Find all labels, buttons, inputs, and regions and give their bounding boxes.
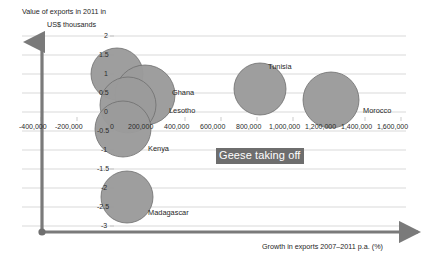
x-tick-1400000: 1,400,000	[341, 123, 372, 130]
x-tick-600000: 600,000	[200, 123, 225, 130]
y-tick-m2: -2	[101, 184, 107, 191]
bubble-morocco	[303, 72, 359, 128]
bubble-madagascar	[101, 171, 153, 223]
bubble-label-lesotho: Lesotho	[169, 107, 195, 114]
gridlines-horizontal	[22, 36, 406, 226]
x-tick-1200000: 1,200,000	[305, 123, 336, 130]
x-tick-m200000: -200,000	[55, 123, 83, 130]
x-tick-800000: 800,000	[236, 123, 261, 130]
x-tick-400000: 400,000	[164, 123, 189, 130]
y-tick-m1p5: -1.5	[97, 165, 109, 172]
y-tick-m3: -3	[101, 222, 107, 229]
x-tick-0: 0	[110, 123, 114, 130]
x-tick-1600000: 1,600,000	[377, 123, 408, 130]
y-tick-1p5: 1.5	[99, 51, 109, 58]
annotation-geese-taking-off: Geese taking off	[216, 148, 304, 164]
bubble-label-tunisia: Tunisia	[268, 63, 292, 70]
y-axis-title-line1: Value of exports in 2011 in	[22, 8, 106, 15]
bubble-label-morocco: Morocco	[363, 107, 391, 114]
y-tick-m0p5: -0.5	[97, 127, 109, 134]
y-tick-m2p5: -2.5	[97, 203, 109, 210]
chart-canvas	[0, 0, 435, 264]
x-tick-200000: 200,000	[128, 123, 153, 130]
bubble-label-madagascar: Madagascar	[148, 209, 189, 216]
bubble-chart: Value of exports in 2011 in US$ thousand…	[0, 0, 435, 264]
bubble-label-kenya: Kenya	[148, 145, 169, 152]
y-tick-1: 1	[104, 70, 108, 77]
bubble-label-ghana: Ghana	[172, 89, 194, 96]
x-tick-m400000: -400,000	[19, 123, 47, 130]
x-tick-1000000: 1,000,000	[269, 123, 300, 130]
y-tick-m1: -1	[101, 146, 107, 153]
x-axis-title: Growth in exports 2007–2011 p.a. (%)	[262, 243, 383, 250]
y-axis-title-line2: US$ thousands	[47, 21, 96, 28]
y-tick-0p5: 0.5	[99, 89, 109, 96]
y-tick-0: 0	[104, 108, 108, 115]
y-tick-2: 2	[104, 32, 108, 39]
